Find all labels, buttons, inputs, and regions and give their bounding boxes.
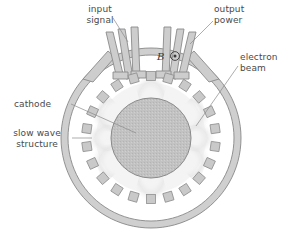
b-symbol-text: B bbox=[157, 51, 164, 62]
label-input-signal: input signal bbox=[72, 4, 128, 25]
label-cathode: cathode bbox=[14, 99, 70, 110]
field-out-of-page-icon bbox=[168, 50, 182, 61]
label-magnetic-field-b: B bbox=[157, 50, 182, 62]
magnetron-cross-section-drawing bbox=[0, 0, 302, 233]
label-output-power: output power bbox=[214, 4, 274, 25]
label-electron-beam: electron beam bbox=[240, 52, 300, 73]
cathode-disc bbox=[111, 98, 191, 178]
magnetron-diagram-figure: input signal output power electron beam … bbox=[0, 0, 302, 233]
label-slow-wave-structure: slow wave structure bbox=[2, 128, 72, 149]
